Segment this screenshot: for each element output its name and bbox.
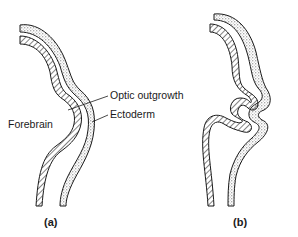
ectoderm-layer-a (20, 25, 94, 206)
label-forebrain: Forebrain (8, 118, 53, 130)
label-optic-outgrowth: Optic outgrowth (110, 89, 184, 101)
caption-panel-b: (b) (233, 216, 247, 228)
ectoderm-layer-b (214, 14, 270, 206)
caption-panel-a: (a) (44, 216, 57, 228)
panel-a-drawing (20, 25, 94, 206)
panel-b-drawing (203, 14, 271, 206)
label-ectoderm: Ectoderm (110, 108, 155, 120)
